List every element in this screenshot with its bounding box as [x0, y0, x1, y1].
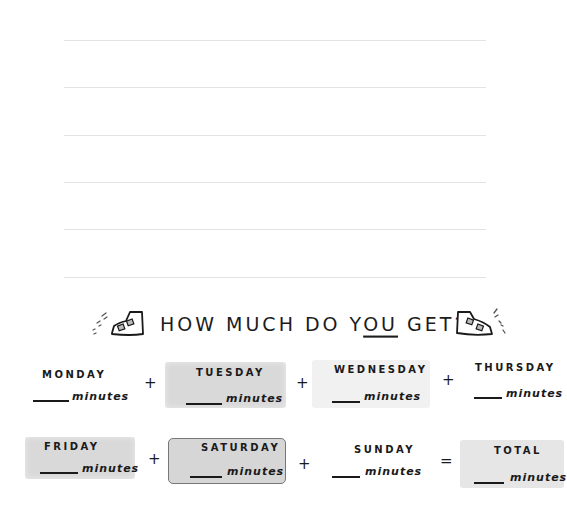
day-label: SUNDAY	[354, 444, 415, 455]
day-label: TUESDAY	[196, 367, 265, 378]
minutes-blank[interactable]	[33, 400, 69, 402]
sneaker-icon	[90, 307, 148, 341]
writing-line	[64, 229, 486, 230]
writing-line	[64, 277, 486, 278]
day-label: MONDAY	[42, 369, 106, 380]
minutes-blank[interactable]	[190, 476, 222, 478]
minutes-label: minutes	[506, 387, 563, 400]
minutes-blank[interactable]	[332, 401, 360, 403]
plus-sign: +	[442, 371, 455, 389]
sneaker-icon	[450, 307, 508, 341]
plus-sign: +	[144, 374, 157, 392]
day-label: WEDNESDAY	[334, 364, 427, 375]
plus-sign: +	[148, 450, 161, 468]
equals-sign: =	[440, 452, 453, 470]
minutes-label: minutes	[226, 392, 283, 405]
minutes-blank[interactable]	[40, 472, 78, 474]
minutes-blank[interactable]	[474, 397, 502, 399]
minutes-blank[interactable]	[332, 476, 360, 478]
writing-line	[64, 135, 486, 136]
minutes-blank[interactable]	[186, 403, 222, 405]
minutes-label: minutes	[72, 390, 129, 403]
plus-sign: +	[296, 374, 309, 392]
heading-title: HOW MUCH DO YOU GET?	[160, 312, 468, 335]
minutes-label: minutes	[227, 465, 284, 478]
total-label: TOTAL	[494, 445, 542, 456]
minutes-label: minutes	[364, 390, 421, 403]
day-label: THURSDAY	[475, 362, 556, 373]
day-label: FRIDAY	[44, 441, 100, 452]
minutes-label: minutes	[365, 465, 422, 478]
section-heading: HOW MUCH DO YOU GET?	[0, 305, 564, 341]
plus-sign: +	[298, 455, 311, 473]
writing-line	[64, 40, 486, 41]
writing-line	[64, 182, 486, 183]
writing-line	[64, 87, 486, 88]
day-label: SATURDAY	[201, 442, 280, 453]
minutes-label: minutes	[82, 462, 139, 475]
minutes-label: minutes	[510, 471, 567, 484]
total-minutes-blank[interactable]	[474, 482, 504, 484]
